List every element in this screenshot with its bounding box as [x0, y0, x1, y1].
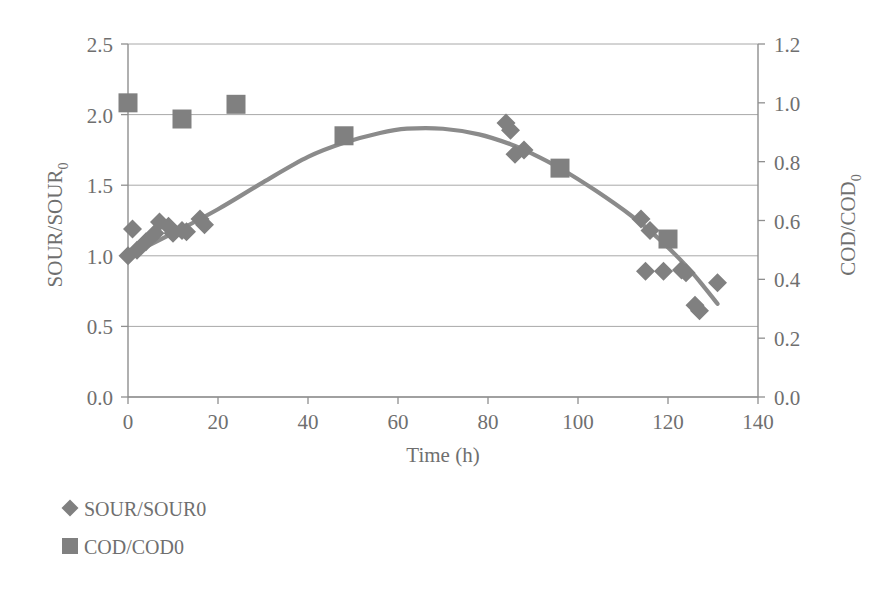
y-axis-right-ticks: 0.00.20.40.60.81.01.2	[758, 33, 801, 410]
y-axis-left-title: SOUR/SOUR0	[43, 163, 71, 288]
chart-figure: 020406080100120140 0.00.51.01.52.02.5 0.…	[0, 0, 895, 592]
x-tick-label: 100	[562, 410, 594, 434]
x-tick-label: 140	[742, 410, 774, 434]
legend-label: COD/COD0	[84, 536, 184, 558]
legend-label: SOUR/SOUR0	[84, 498, 206, 520]
trend-curve	[128, 128, 718, 304]
data-point-square	[659, 230, 678, 249]
trend-curve-path	[128, 128, 718, 304]
axis-frame	[128, 44, 758, 397]
y-axis-right-title: COD/COD0	[836, 174, 864, 276]
y-tick-label-right: 1.2	[774, 33, 800, 57]
y-tick-label-left: 2.5	[87, 33, 113, 57]
y-tick-label-right: 0.0	[774, 386, 800, 410]
y-tick-label-right: 0.4	[774, 268, 801, 292]
data-point-square	[551, 159, 570, 178]
y-tick-label-left: 1.0	[87, 245, 113, 269]
x-axis-title: Time (h)	[406, 443, 479, 467]
x-tick-label: 80	[478, 410, 499, 434]
x-tick-label: 60	[388, 410, 409, 434]
data-point-diamond	[636, 262, 655, 281]
svg-text:SOUR/SOUR0: SOUR/SOUR0	[43, 163, 71, 288]
data-point-square	[173, 110, 192, 129]
y-tick-label-right: 0.2	[774, 327, 800, 351]
y-tick-label-right: 1.0	[774, 92, 800, 116]
data-point-diamond	[708, 273, 727, 292]
y-tick-label-left: 0.0	[87, 386, 113, 410]
data-point-square	[119, 93, 138, 112]
y-tick-label-left: 2.0	[87, 104, 113, 128]
x-tick-label: 0	[123, 410, 134, 434]
gridlines	[128, 44, 758, 397]
y-axis-left-ticks: 0.00.51.01.52.02.5	[87, 33, 128, 410]
data-point-square	[335, 126, 354, 145]
legend-marker-square	[62, 538, 78, 554]
legend-marker-diamond	[62, 500, 79, 517]
y-tick-label-right: 0.8	[774, 151, 800, 175]
scatter-chart: 020406080100120140 0.00.51.01.52.02.5 0.…	[0, 0, 895, 592]
y-axis-right-title-subscript: 0	[849, 174, 864, 181]
series-sour-markers	[119, 114, 728, 321]
x-tick-label: 20	[208, 410, 229, 434]
y-tick-label-left: 0.5	[87, 315, 113, 339]
y-tick-label-right: 0.6	[774, 210, 800, 234]
y-axis-left-title-subscript: 0	[56, 163, 71, 170]
data-point-diamond	[123, 219, 142, 238]
y-axis-left-title-main: SOUR/SOUR	[43, 170, 67, 288]
x-tick-label: 120	[652, 410, 684, 434]
data-point-square	[227, 95, 246, 114]
x-tick-label: 40	[298, 410, 319, 434]
data-point-diamond	[654, 262, 673, 281]
x-axis-ticks: 020406080100120140	[123, 397, 774, 434]
y-axis-right-title-main: COD/COD	[836, 181, 860, 276]
svg-text:COD/COD0: COD/COD0	[836, 174, 864, 276]
y-tick-label-left: 1.5	[87, 174, 113, 198]
chart-legend: SOUR/SOUR0COD/COD0	[62, 498, 207, 558]
